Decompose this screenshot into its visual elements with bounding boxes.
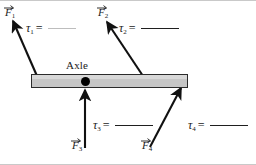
force-label-F3-subscript: 3 bbox=[79, 145, 83, 153]
torque-equals-2: = bbox=[129, 21, 136, 36]
vector-arrow-icon bbox=[71, 133, 82, 139]
torque-subscript-2: 2 bbox=[123, 28, 127, 36]
force-label-F3: F3 bbox=[72, 139, 82, 153]
torque-entry-2: τ2 = bbox=[119, 21, 179, 36]
vector-arrow-icon bbox=[4, 0, 15, 6]
torque-entry-4: τ4 = bbox=[188, 118, 248, 133]
axle-bar bbox=[31, 74, 188, 88]
axle-bar-highlight bbox=[32, 75, 187, 79]
vector-arrow-icon bbox=[141, 133, 152, 139]
torque-subscript-3: 3 bbox=[97, 125, 101, 133]
force-label-F1: F1 bbox=[5, 6, 15, 20]
axle-label: Axle bbox=[66, 59, 88, 71]
torque-entry-1: τ1 = bbox=[26, 21, 76, 36]
force-label-F1-subscript: 1 bbox=[12, 12, 16, 20]
torque-answer-blank-1[interactable] bbox=[48, 28, 76, 29]
torque-diagram: Axle F1 F2 F3 F4 τ1 = τ2 = τ3 = τ4 = bbox=[0, 0, 256, 165]
force-label-F2: F2 bbox=[98, 6, 108, 20]
vector-arrow-icon bbox=[97, 0, 108, 6]
torque-equals-3: = bbox=[103, 118, 110, 133]
torque-subscript-4: 4 bbox=[192, 125, 196, 133]
force-label-F4: F4 bbox=[142, 139, 152, 153]
torque-answer-blank-3[interactable] bbox=[115, 125, 153, 126]
force-arrow-F4 bbox=[150, 88, 181, 147]
force-label-F4-subscript: 4 bbox=[149, 145, 153, 153]
torque-subscript-1: 1 bbox=[30, 28, 34, 36]
torque-answer-blank-2[interactable] bbox=[141, 28, 179, 29]
torque-equals-1: = bbox=[36, 21, 43, 36]
torque-entry-3: τ3 = bbox=[93, 118, 153, 133]
axle-pivot-dot bbox=[81, 77, 90, 86]
force-label-F2-subscript: 2 bbox=[105, 12, 109, 20]
torque-answer-blank-4[interactable] bbox=[210, 125, 248, 126]
torque-equals-4: = bbox=[198, 118, 205, 133]
